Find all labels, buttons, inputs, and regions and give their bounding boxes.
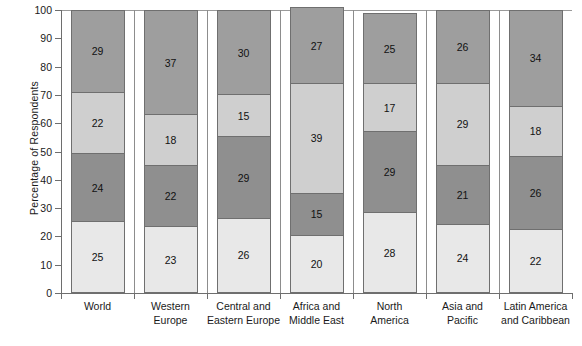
bar-segment[interactable]: 22: [510, 230, 562, 292]
cell-divider: [353, 10, 354, 293]
bar-segment[interactable]: 27: [291, 8, 343, 84]
y-tick-label: 60: [40, 118, 52, 129]
x-tick-mark: [134, 293, 135, 299]
category-cell: 26291530: [207, 10, 280, 293]
cell-divider: [280, 10, 281, 293]
bar-segment[interactable]: 26: [218, 219, 270, 292]
category-cell: 25242229: [61, 10, 134, 293]
category-cell: 28291725: [353, 10, 426, 293]
y-tick-label: 10: [40, 259, 52, 270]
y-tick-label: 0: [46, 288, 52, 299]
bar-segment[interactable]: 25: [72, 222, 124, 292]
y-tick-label: 90: [40, 33, 52, 44]
x-tick-mark: [280, 293, 281, 299]
bar-segment[interactable]: 20: [291, 236, 343, 292]
y-axis-title: Percentage of Respondents: [28, 28, 40, 268]
stacked-bar[interactable]: 24212926: [436, 10, 490, 293]
bar-segment[interactable]: 29: [364, 132, 416, 213]
bar-segment[interactable]: 15: [218, 95, 270, 137]
bar-segment[interactable]: 22: [72, 93, 124, 155]
x-axis-label-line: and Caribbean: [493, 314, 578, 328]
bar-segment[interactable]: 34: [510, 11, 562, 107]
plot-area: 0102030405060708090100 25242229232218372…: [61, 10, 572, 293]
category-cell: 24212926: [426, 10, 499, 293]
cell-divider: [134, 10, 135, 293]
bar-segment[interactable]: 26: [437, 11, 489, 84]
y-tick-label: 30: [40, 203, 52, 214]
y-tick-label: 20: [40, 231, 52, 242]
x-tick-mark: [426, 293, 427, 299]
bar-segment[interactable]: 17: [364, 84, 416, 132]
y-tick-label: 50: [40, 146, 52, 157]
bar-segment[interactable]: 18: [145, 115, 197, 166]
y-tick-label: 70: [40, 90, 52, 101]
bar-segment[interactable]: 24: [72, 154, 124, 221]
stacked-bar[interactable]: 23221837: [144, 10, 198, 293]
bar-segment[interactable]: 29: [72, 11, 124, 92]
x-tick-mark: [353, 293, 354, 299]
bar-segment[interactable]: 29: [437, 84, 489, 165]
stacked-bar[interactable]: 22261834: [509, 10, 563, 293]
y-tick-label: 40: [40, 175, 52, 186]
category-cell: 23221837: [134, 10, 207, 293]
x-axis-label: Latin Americaand Caribbean: [493, 300, 578, 327]
x-tick-mark: [572, 293, 573, 299]
x-axis-line: [61, 293, 572, 294]
cell-divider: [499, 10, 500, 293]
bar-segment[interactable]: 18: [510, 107, 562, 158]
bar-segment[interactable]: 24: [437, 225, 489, 292]
bar-segment[interactable]: 15: [291, 194, 343, 236]
bar-segment[interactable]: 25: [364, 14, 416, 84]
x-tick-mark: [61, 293, 62, 299]
x-tick-mark: [207, 293, 208, 299]
y-tick-label: 80: [40, 61, 52, 72]
bar-segment[interactable]: 23: [145, 227, 197, 292]
stacked-bar[interactable]: 26291530: [217, 10, 271, 293]
bar-segment[interactable]: 26: [510, 157, 562, 230]
bar-segment[interactable]: 30: [218, 11, 270, 95]
cell-divider: [207, 10, 208, 293]
stacked-bar[interactable]: 28291725: [363, 13, 417, 293]
category-cell: 20153927: [280, 10, 353, 293]
stacked-bar[interactable]: 25242229: [71, 10, 125, 293]
category-cell: 22261834: [499, 10, 572, 293]
bar-segment[interactable]: 37: [145, 11, 197, 115]
y-tick-label: 100: [34, 5, 52, 16]
stacked-bar[interactable]: 20153927: [290, 7, 344, 293]
bar-segment[interactable]: 28: [364, 213, 416, 292]
cell-divider: [426, 10, 427, 293]
x-tick-mark: [499, 293, 500, 299]
bar-segment[interactable]: 21: [437, 166, 489, 225]
x-axis-label-line: Latin America: [493, 300, 578, 314]
bar-segment[interactable]: 29: [218, 137, 270, 218]
stacked-bar-chart: Percentage of Respondents 01020304050607…: [0, 0, 582, 346]
bar-segment[interactable]: 22: [145, 166, 197, 228]
bar-segment[interactable]: 39: [291, 84, 343, 194]
